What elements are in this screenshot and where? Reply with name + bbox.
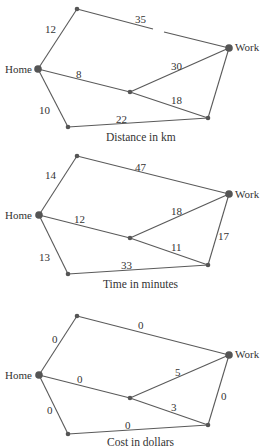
node-bl — [66, 272, 71, 277]
caption-cost: Cost in dollars — [107, 436, 175, 447]
weight-mid-br: 3 — [171, 401, 177, 413]
edge-home-bl — [39, 375, 68, 434]
node-label-work: Work — [235, 348, 260, 360]
edge-home-bl — [38, 69, 68, 127]
edge-top-work-b — [164, 32, 229, 48]
weight-mid-work: 30 — [171, 60, 183, 72]
edge-home-top — [38, 9, 77, 69]
node-work — [225, 351, 233, 359]
edge-home-top — [39, 316, 77, 375]
weight-home-top: 14 — [45, 169, 57, 181]
node-top — [75, 7, 80, 12]
edge-mid-br — [130, 92, 208, 118]
edge-bl-br — [68, 425, 208, 434]
node-label-work: Work — [235, 188, 260, 200]
weight-home-top: 0 — [52, 333, 58, 345]
node-work — [225, 44, 233, 52]
weight-home-bl: 0 — [47, 404, 53, 416]
weight-mid-br: 11 — [171, 241, 182, 253]
node-br — [206, 423, 211, 428]
edge-home-bl — [39, 215, 68, 274]
weight-home-mid: 8 — [76, 68, 82, 80]
node-home — [35, 211, 43, 219]
weight-home-bl: 13 — [39, 251, 51, 263]
weight-br-work: 0 — [221, 390, 227, 402]
node-bl — [66, 125, 71, 130]
time-graph: Home Work 14 47 12 18 11 13 33 17 Time i… — [5, 154, 260, 290]
weight-top-work: 35 — [135, 13, 147, 25]
node-br — [206, 263, 211, 268]
node-br — [206, 116, 211, 121]
edge-br-work — [208, 48, 229, 118]
route-diagrams: Home Work 12 35 8 30 18 10 22 Distance i… — [0, 0, 268, 447]
weight-home-bl: 10 — [39, 104, 51, 116]
node-label-home: Home — [5, 369, 32, 381]
node-home — [34, 65, 42, 73]
edge-mid-br — [130, 398, 208, 425]
node-label-home: Home — [5, 63, 32, 75]
weight-bl-br: 33 — [121, 259, 133, 271]
weight-home-mid: 12 — [74, 213, 85, 225]
node-label-work: Work — [235, 41, 260, 53]
weight-top-work: 47 — [135, 161, 147, 173]
node-label-home: Home — [5, 209, 32, 221]
weight-bl-br: 22 — [116, 113, 127, 125]
edge-bl-br — [68, 265, 208, 274]
weight-mid-work: 18 — [171, 205, 183, 217]
cost-graph: Home Work 0 0 0 5 3 0 0 0 Cost in dollar… — [5, 314, 260, 447]
node-top — [75, 154, 80, 159]
caption-distance: Distance in km — [106, 131, 176, 143]
edge-mid-br — [130, 238, 208, 265]
edge-bl-br — [68, 118, 208, 127]
node-home — [35, 371, 43, 379]
weight-top-work: 0 — [138, 319, 144, 331]
weight-bl-br: 0 — [125, 419, 131, 431]
weight-home-top: 12 — [45, 23, 56, 35]
weight-mid-br: 18 — [171, 94, 183, 106]
edge-home-mid — [39, 375, 130, 398]
edge-top-work — [77, 156, 229, 194]
node-work — [225, 190, 233, 198]
edge-top-work — [77, 316, 229, 355]
node-top — [75, 314, 80, 319]
distance-graph: Home Work 12 35 8 30 18 10 22 Distance i… — [5, 7, 260, 143]
node-mid — [128, 90, 133, 95]
node-bl — [66, 432, 71, 437]
weight-mid-work: 5 — [175, 366, 181, 378]
node-mid — [128, 396, 133, 401]
weight-br-work: 17 — [218, 230, 230, 242]
weight-home-mid: 0 — [77, 373, 83, 385]
edge-home-top — [39, 156, 77, 215]
edge-home-mid — [38, 69, 130, 92]
node-mid — [128, 236, 133, 241]
caption-time: Time in minutes — [103, 278, 178, 290]
